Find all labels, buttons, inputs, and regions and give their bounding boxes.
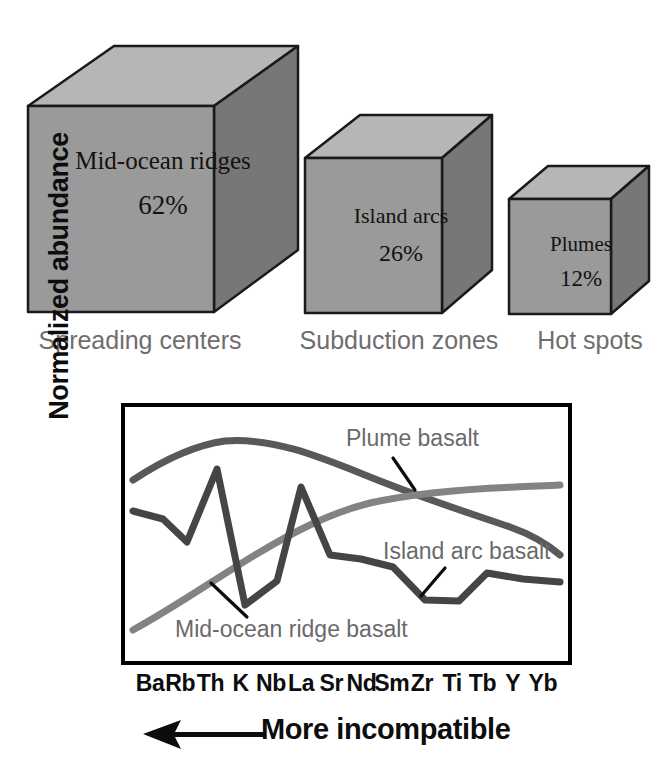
x-tick-th: Th — [197, 670, 225, 697]
curve-label-island-arc-basalt: Island arc basalt — [383, 538, 550, 565]
cube-bar-panel: Mid-ocean ridges 62% Island arcs 26% Plu… — [0, 0, 669, 370]
x-axis-tick-labels: BaRbThKNbLaSrNdSmZrTiTbYYb — [121, 670, 572, 704]
x-tick-yb: Yb — [528, 670, 557, 697]
curve-label-plume-basalt: Plume basalt — [346, 425, 479, 452]
cube-shape-2 — [302, 100, 500, 318]
axis-note-label: More incompatible — [261, 713, 510, 746]
x-tick-sr: Sr — [320, 670, 344, 697]
cube-caption-subduction-zones: Subduction zones — [284, 326, 514, 355]
trace-element-plot-panel: Normalized abundance Plume basalt Island… — [0, 370, 669, 773]
x-tick-nd: Nd — [347, 670, 377, 697]
x-tick-la: La — [288, 670, 314, 697]
cube-plumes: Plumes 12% — [506, 155, 656, 318]
y-axis-label: Normalized abundance — [44, 131, 78, 421]
x-tick-sm: Sm — [374, 670, 409, 697]
x-tick-tb: Tb — [469, 670, 497, 697]
x-tick-rb: Rb — [165, 670, 195, 697]
curve-label-morb: Mid-ocean ridge basalt — [175, 616, 408, 643]
x-tick-k: K — [233, 670, 249, 697]
x-tick-zr: Zr — [411, 670, 433, 697]
cube-caption-hot-spots: Hot spots — [516, 326, 664, 355]
left-arrow-icon — [141, 718, 271, 752]
basalt-sources-figure: Mid-ocean ridges 62% Island arcs 26% Plu… — [0, 0, 669, 773]
leader-line-island-arc — [421, 568, 445, 596]
axis-direction-note: More incompatible — [121, 710, 581, 762]
x-tick-y: Y — [505, 670, 520, 697]
x-tick-ti: Ti — [443, 670, 462, 697]
cube-shape-3 — [506, 155, 656, 318]
x-tick-nb: Nb — [256, 670, 286, 697]
cube-island-arcs: Island arcs 26% — [302, 100, 500, 318]
plot-frame: Plume basalt Island arc basalt Mid-ocean… — [121, 403, 572, 665]
x-tick-ba: Ba — [136, 670, 165, 697]
